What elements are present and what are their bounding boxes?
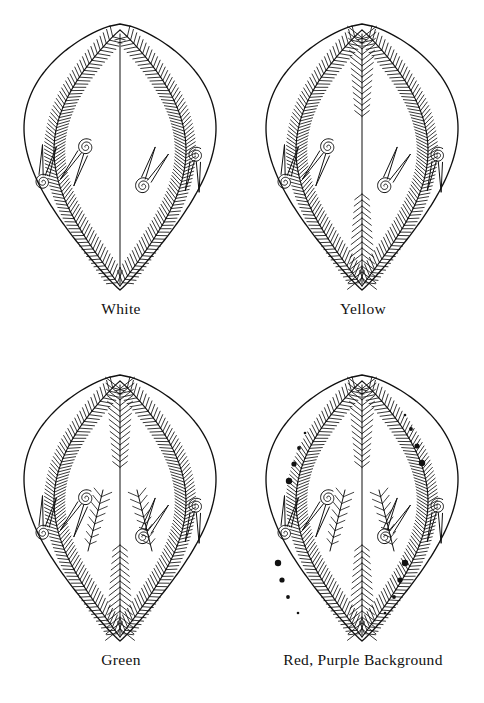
- egg-drawing-yellow: [242, 0, 484, 310]
- egg-drawing-green: [0, 351, 242, 661]
- egg-label-green: Green: [0, 651, 242, 669]
- egg-label-yellow: Yellow: [242, 300, 484, 318]
- egg-drawing-red-purple: [242, 351, 484, 661]
- egg-label-red-purple: Red, Purple Background: [242, 651, 484, 669]
- egg-label-white: White: [0, 300, 242, 318]
- egg-panel-white: White: [0, 0, 242, 352]
- egg-illustration-figure: White Yellow Green Red, Purple Backgroun…: [0, 0, 484, 703]
- egg-panel-green: Green: [0, 351, 242, 703]
- egg-panel-red-purple: Red, Purple Background: [242, 351, 484, 703]
- egg-panel-yellow: Yellow: [242, 0, 484, 352]
- egg-drawing-white: [0, 0, 242, 310]
